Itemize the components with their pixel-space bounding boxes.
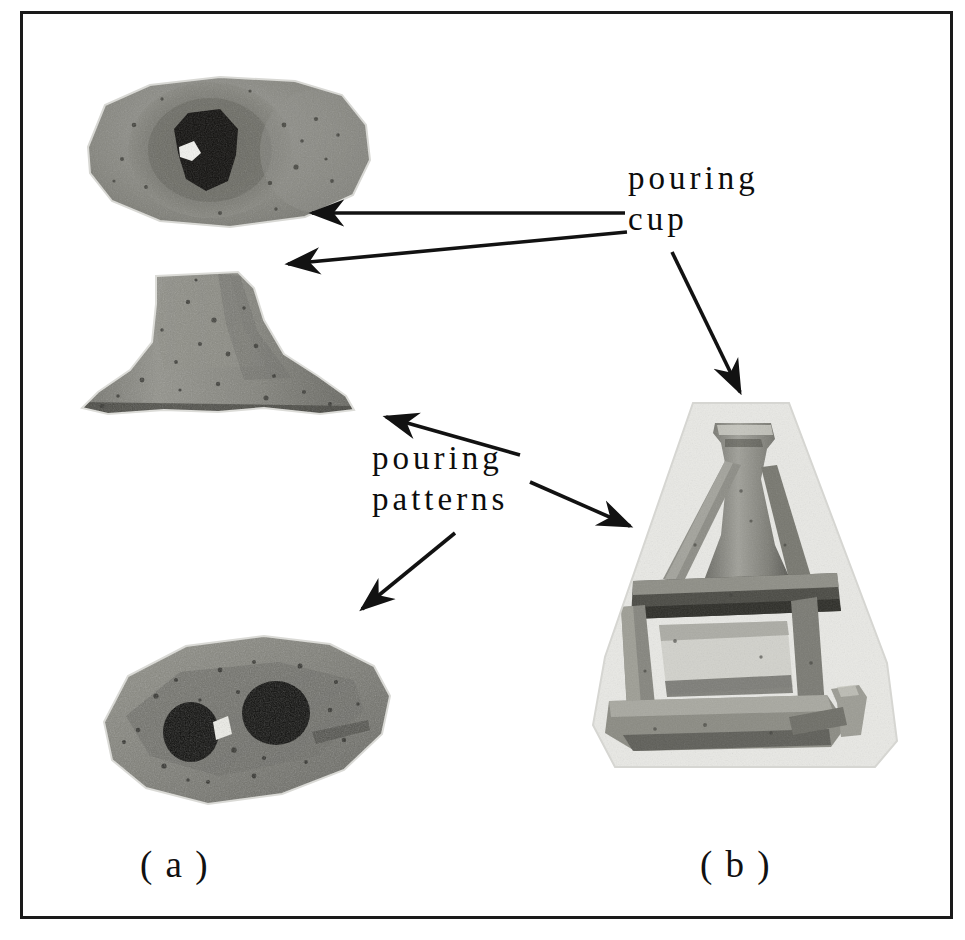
figure-page: pouring cup pouring patterns ( a ) ( b ) [0,0,965,940]
photo-pouring-cup-side-view [68,258,368,438]
photo-gating-system-assembly [575,395,915,795]
photo-pouring-pattern-plate [68,610,398,815]
caption-panel-a: ( a ) [140,843,210,886]
caption-panel-b: ( b ) [700,843,772,886]
photo-pouring-cup-top-view [70,55,380,240]
label-pouring-patterns: pouring patterns [372,438,508,520]
label-pouring-cup: pouring cup [628,158,759,240]
